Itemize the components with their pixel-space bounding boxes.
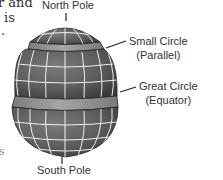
upper-hemisphere — [14, 49, 117, 102]
small-circle-label: Small Circle (Parallel) — [129, 35, 188, 63]
great-circle-title: Great Circle — [139, 80, 198, 94]
great-circle-subtitle: (Equator) — [139, 94, 198, 108]
small-circle-title: Small Circle — [129, 35, 188, 49]
small-circle-leader — [106, 41, 126, 48]
great-circle-label: Great Circle (Equator) — [139, 80, 198, 108]
lower-hemisphere — [12, 107, 118, 158]
north-pole-label: North Pole — [42, 0, 94, 13]
small-circle-subtitle: (Parallel) — [129, 49, 188, 63]
south-pole-label: South Pole — [37, 164, 91, 178]
great-circle-leader — [120, 87, 136, 92]
